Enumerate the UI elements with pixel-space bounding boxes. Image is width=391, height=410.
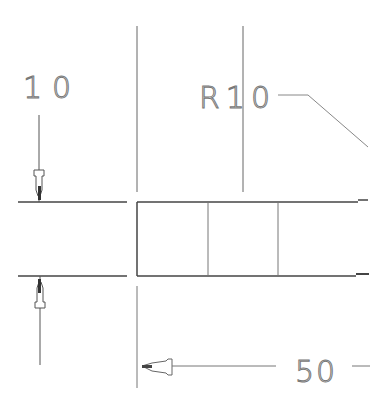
horizontal-dimension: 50 xyxy=(142,354,370,389)
radius-leader-line xyxy=(278,95,368,147)
vertical-dimension: 10 xyxy=(23,70,81,365)
technical-drawing: 10 R10 50 xyxy=(0,0,391,410)
part-outline xyxy=(137,200,369,276)
radius-dim-label: R10 xyxy=(199,80,276,115)
horizontal-dim-label: 50 xyxy=(295,354,337,389)
vertical-dim-label: 10 xyxy=(23,70,81,105)
radius-dimension: R10 xyxy=(199,80,368,147)
